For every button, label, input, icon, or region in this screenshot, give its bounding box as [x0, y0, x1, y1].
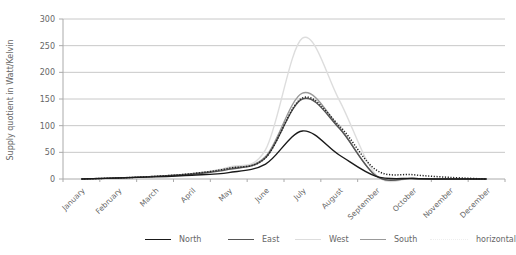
- x-tick-label: March: [138, 186, 161, 209]
- legend-label: South: [394, 235, 417, 244]
- y-tick-label: 50: [45, 148, 55, 157]
- legend-swatch: [360, 239, 386, 240]
- x-tick-label: January: [60, 186, 88, 214]
- legend-label: East: [262, 235, 279, 244]
- y-tick-label: 250: [40, 42, 55, 51]
- legend-swatch: [430, 239, 468, 240]
- legend-item-west: West: [295, 232, 349, 246]
- x-tick-label: November: [421, 185, 456, 220]
- x-tick-label: October: [391, 185, 419, 213]
- y-tick-label: 0: [50, 175, 55, 184]
- x-tick-label: April: [179, 186, 197, 204]
- legend-item-south: South: [360, 232, 417, 246]
- legend-label: North: [179, 235, 201, 244]
- y-tick-label: 200: [40, 68, 55, 77]
- legend-label: horizontal: [476, 235, 516, 244]
- legend-item-east: East: [228, 232, 279, 246]
- y-axis-label: Supply quotient in Watt/Kelvin: [3, 100, 17, 101]
- x-tick-label: September: [346, 185, 382, 221]
- x-tick-label: February: [94, 186, 124, 216]
- series-line-east: [81, 98, 486, 180]
- y-tick-label: 100: [40, 122, 55, 131]
- legend-swatch: [228, 239, 254, 240]
- y-tick-label: 150: [40, 95, 55, 104]
- x-tick-label: June: [252, 186, 271, 205]
- x-tick-label: August: [320, 186, 345, 211]
- legend-swatch: [295, 239, 321, 240]
- legend-swatch: [145, 239, 171, 240]
- legend-item-horizontal: horizontal: [430, 232, 516, 246]
- series-line-south: [81, 93, 486, 181]
- x-tick-label: July: [291, 186, 308, 203]
- series-line-north: [81, 131, 486, 179]
- series-line-horizontal: [81, 97, 486, 179]
- x-tick-label: May: [217, 186, 235, 204]
- y-tick-label: 300: [40, 15, 55, 24]
- legend: NorthEastWestSouthhorizontal: [0, 232, 514, 246]
- legend-label: West: [329, 235, 349, 244]
- x-tick-label: December: [458, 185, 493, 220]
- series-line-west: [81, 37, 486, 181]
- legend-item-north: North: [145, 232, 201, 246]
